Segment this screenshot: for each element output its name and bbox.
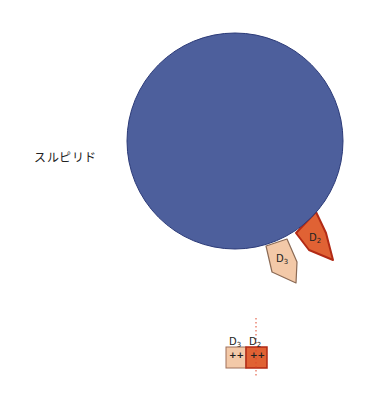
- d3-receptor-shape: D3: [266, 239, 297, 283]
- d3-affinity-value: ++: [229, 350, 244, 360]
- drug-molecule-circle: [127, 33, 343, 249]
- binding-diagram: D2 D3 D3 D2 ++ ++: [0, 0, 365, 409]
- affinity-bar: D3 D2 ++ ++: [226, 318, 267, 376]
- d2-affinity-value: ++: [250, 350, 265, 360]
